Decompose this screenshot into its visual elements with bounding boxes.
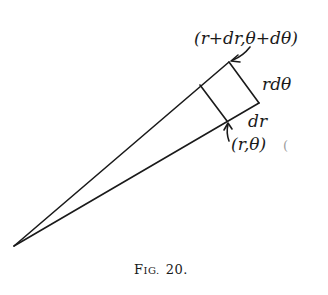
inner-edge xyxy=(200,85,227,121)
lower-ray xyxy=(14,103,259,246)
stray-mark: ( xyxy=(283,138,288,153)
caption-number: 20. xyxy=(166,262,188,277)
arc-length-label: rdθ xyxy=(262,74,291,94)
upper-ray xyxy=(14,62,229,246)
inner-point-label: (r,θ) xyxy=(231,134,266,154)
figure-caption: FIG.20. xyxy=(134,262,188,277)
inner-point-arrow xyxy=(227,124,229,141)
polar-element-diagram: (r+dr,θ+dθ) rdθ dr (r,θ) ( FIG.20. xyxy=(0,0,328,295)
caption-small-caps: IG. xyxy=(144,265,160,276)
radial-length-label: dr xyxy=(248,111,268,131)
outer-edge xyxy=(229,62,259,103)
outer-point-label: (r+dr,θ+dθ) xyxy=(194,28,298,48)
caption-first-letter: F xyxy=(134,262,144,277)
